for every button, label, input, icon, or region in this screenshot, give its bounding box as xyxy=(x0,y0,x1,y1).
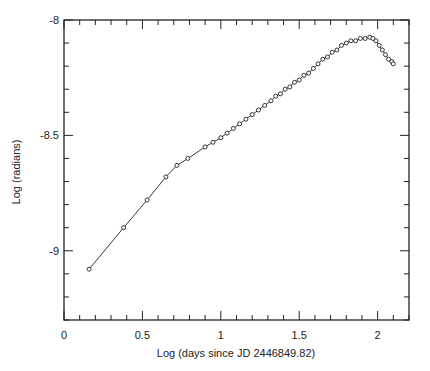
data-point-marker xyxy=(274,94,278,98)
data-point-marker xyxy=(380,48,384,52)
data-point-marker xyxy=(293,80,297,84)
data-point-marker xyxy=(311,66,315,70)
data-point-marker xyxy=(203,145,207,149)
data-point-marker xyxy=(302,73,306,77)
x-tick-label: 1.5 xyxy=(292,329,307,341)
data-point-marker xyxy=(316,62,320,66)
data-series xyxy=(87,35,395,271)
data-point-marker xyxy=(383,53,387,57)
data-point-marker xyxy=(211,140,215,144)
data-point-marker xyxy=(391,62,395,66)
data-point-marker xyxy=(321,57,325,61)
data-point-marker xyxy=(122,226,126,230)
data-point-marker xyxy=(186,156,190,160)
data-point-marker xyxy=(219,136,223,140)
data-point-marker xyxy=(283,87,287,91)
data-point-marker xyxy=(175,163,179,167)
data-point-marker xyxy=(340,43,344,47)
data-point-marker xyxy=(363,36,367,40)
data-point-marker xyxy=(164,175,168,179)
y-axis-ticks: -8-8.5-9 xyxy=(40,14,409,320)
data-point-marker xyxy=(238,122,242,126)
data-point-marker xyxy=(330,50,334,54)
data-point-marker xyxy=(325,55,329,59)
data-point-marker xyxy=(250,113,254,117)
data-point-marker xyxy=(307,71,311,75)
data-point-marker xyxy=(297,78,301,82)
chart: 00.511.52 -8-8.5-9 Log (days since JD 24… xyxy=(0,0,430,371)
data-point-marker xyxy=(374,39,378,43)
x-tick-label: 2 xyxy=(375,329,381,341)
data-point-marker xyxy=(377,43,381,47)
data-point-marker xyxy=(354,39,358,43)
y-tick-label: -8.5 xyxy=(40,129,59,141)
x-axis-label: Log (days since JD 2446849.82) xyxy=(157,347,315,359)
data-point-marker xyxy=(225,131,229,135)
data-point-marker xyxy=(344,41,348,45)
data-point-marker xyxy=(256,108,260,112)
data-point-marker xyxy=(87,267,91,271)
plot-frame xyxy=(64,20,409,320)
y-tick-label: -8 xyxy=(49,14,59,26)
y-tick-label: -9 xyxy=(49,245,59,257)
data-point-marker xyxy=(349,39,353,43)
data-point-marker xyxy=(231,126,235,130)
data-point-marker xyxy=(358,36,362,40)
x-axis-ticks: 00.511.52 xyxy=(61,20,409,341)
x-tick-label: 0 xyxy=(61,329,67,341)
data-point-marker xyxy=(278,92,282,96)
data-point-marker xyxy=(244,117,248,121)
data-point-marker xyxy=(269,99,273,103)
data-point-marker xyxy=(335,48,339,52)
x-tick-label: 1 xyxy=(218,329,224,341)
data-point-marker xyxy=(145,198,149,202)
x-tick-label: 0.5 xyxy=(135,329,150,341)
data-point-marker xyxy=(263,103,267,107)
y-axis-label: Log (radians) xyxy=(10,140,22,205)
data-point-marker xyxy=(288,85,292,89)
series-line xyxy=(89,37,393,269)
